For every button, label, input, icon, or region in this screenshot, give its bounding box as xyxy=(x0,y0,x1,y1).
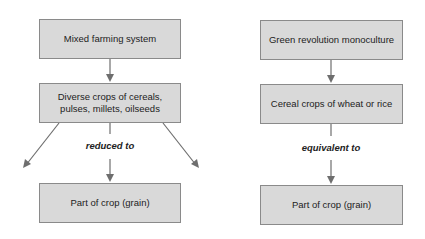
green-revolution-box: Green revolution monoculture xyxy=(260,20,403,60)
cereal-crops-text: Cereal crops of wheat or rice xyxy=(271,98,392,110)
mixed-farming-text: Mixed farming system xyxy=(64,33,156,45)
right-grain-box: Part of crop (grain) xyxy=(260,185,403,225)
diverse-crops-box: Diverse crops of cereals, pulses, millet… xyxy=(39,83,181,123)
cereal-crops-box: Cereal crops of wheat or rice xyxy=(260,84,403,124)
left-grain-box: Part of crop (grain) xyxy=(39,183,181,223)
green-revolution-text: Green revolution monoculture xyxy=(269,34,394,46)
equivalent-to-label: equivalent to xyxy=(286,142,376,153)
diverse-crops-text: Diverse crops of cereals, pulses, millet… xyxy=(44,91,176,115)
reduced-to-label: reduced to xyxy=(70,140,150,151)
left-grain-text: Part of crop (grain) xyxy=(70,197,149,209)
right-grain-text: Part of crop (grain) xyxy=(292,199,371,211)
mixed-farming-box: Mixed farming system xyxy=(39,19,181,59)
